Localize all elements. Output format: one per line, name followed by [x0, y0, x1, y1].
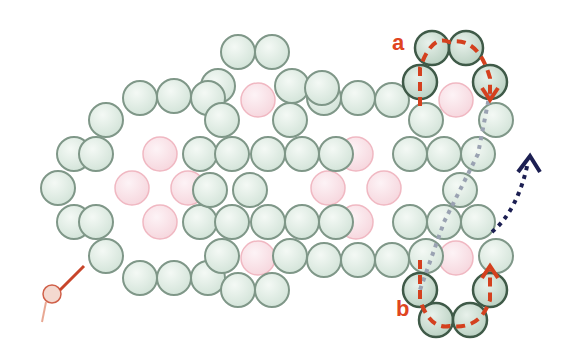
- green-bead: [393, 205, 427, 239]
- green-bead: [461, 205, 495, 239]
- green-bead: [221, 273, 255, 307]
- green-bead: [319, 205, 353, 239]
- green-bead: [205, 239, 239, 273]
- green-bead: [183, 205, 217, 239]
- green-bead: [307, 243, 341, 277]
- pink-bead: [439, 83, 473, 117]
- green-bead: [341, 243, 375, 277]
- pink-bead: [367, 171, 401, 205]
- green-bead: [341, 81, 375, 115]
- green-bead: [205, 103, 239, 137]
- green-bead: [89, 103, 123, 137]
- green-bead: [427, 137, 461, 171]
- green-bead: [479, 239, 513, 273]
- pink-bead: [115, 171, 149, 205]
- highlighted-bead: [449, 31, 483, 65]
- green-bead: [221, 35, 255, 69]
- highlighted-bead: [453, 303, 487, 337]
- green-bead: [443, 173, 477, 207]
- thread-tail: [42, 266, 84, 322]
- beading-diagram: [0, 0, 570, 357]
- green-bead: [79, 205, 113, 239]
- green-bead: [157, 261, 191, 295]
- navy-thread-path: [492, 162, 528, 232]
- green-bead: [215, 205, 249, 239]
- green-bead: [393, 137, 427, 171]
- label-a: a: [392, 30, 404, 56]
- green-bead: [79, 137, 113, 171]
- green-bead: [285, 137, 319, 171]
- green-bead: [233, 173, 267, 207]
- green-bead: [41, 171, 75, 205]
- green-bead: [275, 69, 309, 103]
- pink-bead: [143, 137, 177, 171]
- green-bead: [89, 239, 123, 273]
- label-b: b: [396, 296, 409, 322]
- pink-bead: [311, 171, 345, 205]
- arrow-up-icon: [518, 156, 540, 172]
- green-bead: [255, 273, 289, 307]
- green-bead: [375, 243, 409, 277]
- pink-bead: [241, 83, 275, 117]
- pink-bead: [439, 241, 473, 275]
- green-bead: [251, 205, 285, 239]
- green-bead: [285, 205, 319, 239]
- pink-bead: [143, 205, 177, 239]
- green-bead: [157, 79, 191, 113]
- green-bead: [215, 137, 249, 171]
- green-bead: [273, 239, 307, 273]
- green-bead: [319, 137, 353, 171]
- green-bead: [183, 137, 217, 171]
- green-bead: [251, 137, 285, 171]
- green-bead: [123, 81, 157, 115]
- green-bead: [409, 103, 443, 137]
- green-bead: [273, 103, 307, 137]
- green-bead: [427, 205, 461, 239]
- green-bead: [193, 173, 227, 207]
- green-bead: [255, 35, 289, 69]
- green-bead: [305, 71, 339, 105]
- pink-bead: [241, 241, 275, 275]
- green-bead: [123, 261, 157, 295]
